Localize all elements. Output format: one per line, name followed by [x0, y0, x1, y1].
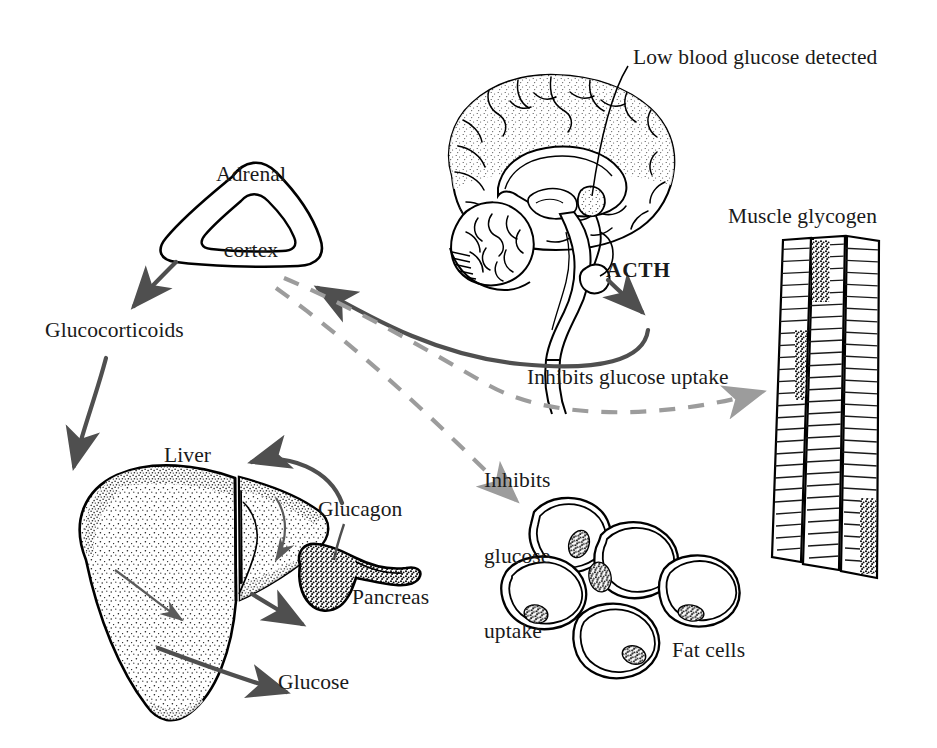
- muscle-fibers-illustration: [770, 236, 882, 578]
- diagram-canvas: Low blood glucose detected Adrenal corte…: [0, 0, 937, 748]
- label-inhibits-glucose-uptake-fat: Inhibits glucose uptake: [484, 418, 551, 695]
- label-low-blood-glucose: Low blood glucose detected: [633, 45, 877, 70]
- label-acth: ACTH: [606, 258, 671, 283]
- diagram-illustration: [0, 0, 937, 748]
- label-adrenal-cortex: Adrenal cortex: [176, 112, 326, 313]
- arrow-adrenal-to-glucocorticoids: [134, 262, 176, 306]
- arrow-pituitary-to-acth: [608, 280, 642, 312]
- arrow-brain-to-adrenal: [318, 288, 648, 366]
- label-adrenal-cortex-line2: cortex: [176, 238, 326, 263]
- arrow-dashed-to-muscle: [284, 278, 762, 412]
- label-glucose-line1: Glucose: [278, 670, 375, 695]
- label-liver: Liver: [164, 443, 211, 468]
- label-inhibits-line3: uptake: [484, 619, 551, 644]
- label-pancreas: Pancreas: [352, 585, 429, 610]
- label-inhibits-line2: glucose: [484, 544, 551, 569]
- label-muscle-glycogen: Muscle glycogen: [728, 204, 877, 229]
- label-inhibits-line1: Inhibits: [484, 468, 551, 493]
- label-fat-cells: Fat cells: [672, 638, 745, 663]
- arrow-glucocorticoids-to-liver: [74, 358, 106, 466]
- label-glucagon: Glucagon: [318, 497, 402, 522]
- brain-illustration: [448, 75, 674, 414]
- label-glucose-synthesis-and-release: Glucose synthesis and release: [278, 620, 375, 748]
- label-inhibits-glucose-uptake-muscle: Inhibits glucose uptake: [527, 365, 729, 390]
- label-adrenal-cortex-line1: Adrenal: [176, 162, 326, 187]
- label-glucocorticoids: Glucocorticoids: [45, 318, 184, 343]
